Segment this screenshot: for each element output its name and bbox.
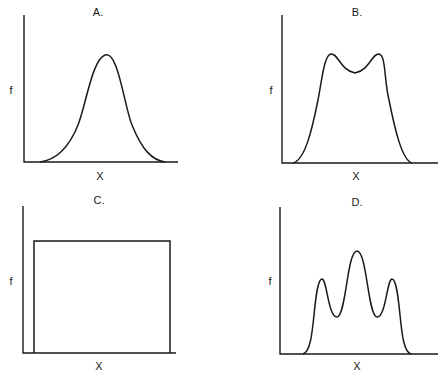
panel-a-ylabel: f (9, 84, 13, 96)
distribution-figure: A. f X B. f X C. f X D. f X (0, 0, 442, 375)
panel-b-xlabel: X (352, 170, 360, 182)
panel-d-xlabel: X (353, 360, 361, 372)
panel-c-xlabel: X (95, 360, 103, 372)
panel-a: A. f X (9, 6, 178, 182)
panel-d: D. f X (268, 196, 438, 372)
panel-c-rectangle (34, 241, 170, 353)
panel-c-ylabel: f (9, 275, 13, 287)
panel-d-ylabel: f (268, 275, 272, 287)
panel-c: C. f X (9, 194, 176, 372)
panel-d-curve (303, 251, 411, 354)
panel-b-ylabel: f (269, 84, 273, 96)
panel-d-axes (280, 207, 438, 354)
panel-c-title: C. (94, 194, 105, 206)
panel-a-xlabel: X (96, 170, 104, 182)
panel-c-axes (23, 206, 176, 353)
panel-a-curve (40, 55, 165, 162)
panel-a-title: A. (93, 6, 103, 18)
panel-b-curve (293, 54, 412, 163)
panel-b-title: B. (352, 6, 362, 18)
panel-b: B. f X (269, 6, 438, 182)
panel-d-title: D. (352, 196, 363, 208)
panel-b-axes (282, 15, 438, 163)
panel-a-axes (24, 15, 178, 162)
